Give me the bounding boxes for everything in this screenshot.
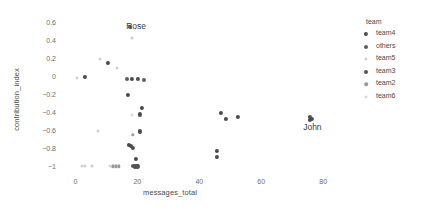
data-point bbox=[131, 133, 134, 136]
data-point bbox=[131, 114, 134, 117]
y-tick-label: 0.6 bbox=[30, 19, 56, 26]
x-tick-label: 80 bbox=[310, 178, 336, 185]
legend-item-team2[interactable]: team2 bbox=[358, 80, 438, 92]
legend-item-label: team4 bbox=[376, 29, 395, 36]
data-point bbox=[80, 165, 83, 168]
y-tick-label: −0.8 bbox=[30, 145, 56, 152]
legend-marker-icon bbox=[364, 58, 367, 61]
legend-title: team bbox=[366, 18, 382, 25]
data-point bbox=[135, 164, 139, 168]
legend-item-team5[interactable]: team5 bbox=[358, 55, 438, 67]
legend-item-label: team6 bbox=[376, 92, 395, 99]
data-point bbox=[91, 165, 94, 168]
y-tick-label: −1 bbox=[30, 163, 56, 170]
legend-item-label: team5 bbox=[376, 54, 395, 61]
data-point bbox=[219, 110, 223, 114]
y-tick-label: 0.4 bbox=[30, 37, 56, 44]
data-point bbox=[83, 75, 87, 79]
legend-item-team4[interactable]: team4 bbox=[358, 30, 438, 42]
y-tick-label: 0.2 bbox=[30, 55, 56, 62]
data-point bbox=[116, 66, 119, 69]
data-point bbox=[109, 165, 112, 168]
legend-item-label: team2 bbox=[376, 79, 395, 86]
x-axis-title: messages_total bbox=[0, 188, 340, 197]
y-tick-label: −0.6 bbox=[30, 127, 56, 134]
legend-marker-icon bbox=[364, 45, 368, 49]
data-point bbox=[136, 77, 140, 81]
data-point bbox=[125, 77, 129, 81]
x-tick-label: 0 bbox=[62, 178, 88, 185]
y-tick-label: −0.4 bbox=[30, 109, 56, 116]
data-point bbox=[84, 165, 87, 168]
y-tick-label: −0.2 bbox=[30, 91, 56, 98]
legend-item-team6[interactable]: team6 bbox=[358, 93, 438, 105]
scatter-chart: 0.60.40.20−0.2−0.4−0.6−0.8−1 020406080 R… bbox=[0, 0, 440, 207]
point-annotation: Rose bbox=[126, 21, 146, 31]
legend-marker-icon bbox=[364, 70, 368, 74]
data-point bbox=[215, 149, 219, 153]
data-point bbox=[130, 77, 134, 81]
data-point bbox=[126, 93, 130, 97]
x-tick-label: 20 bbox=[124, 178, 150, 185]
x-tick-label: 40 bbox=[186, 178, 212, 185]
data-point bbox=[106, 61, 110, 65]
legend-marker-icon bbox=[364, 95, 367, 98]
y-tick-label: 0 bbox=[30, 73, 56, 80]
data-point bbox=[224, 117, 228, 121]
data-point bbox=[215, 154, 219, 158]
data-point bbox=[138, 129, 142, 133]
data-point bbox=[117, 165, 120, 168]
y-axis-title: contribution_index bbox=[12, 40, 21, 160]
legend-item-label: others bbox=[376, 42, 395, 49]
x-tick-label: 60 bbox=[248, 178, 274, 185]
data-point bbox=[131, 145, 135, 149]
data-point bbox=[140, 106, 144, 110]
legend-marker-icon bbox=[364, 32, 368, 36]
data-point bbox=[96, 129, 99, 132]
data-point bbox=[236, 115, 240, 119]
point-annotation: John bbox=[303, 122, 321, 132]
data-point bbox=[76, 76, 79, 79]
legend-item-team3[interactable]: team3 bbox=[358, 68, 438, 80]
data-point bbox=[134, 157, 138, 161]
data-point bbox=[130, 37, 133, 40]
data-point bbox=[98, 57, 101, 60]
legend-marker-icon bbox=[364, 83, 368, 87]
data-point bbox=[310, 117, 314, 121]
data-point bbox=[138, 112, 142, 116]
data-point bbox=[142, 78, 146, 82]
legend-item-label: team3 bbox=[376, 67, 395, 74]
legend-item-others[interactable]: others bbox=[358, 43, 438, 55]
